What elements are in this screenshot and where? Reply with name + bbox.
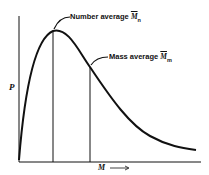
number-average-symbol: M bbox=[131, 12, 138, 21]
mass-average-pointer bbox=[91, 57, 108, 65]
number-average-pointer bbox=[54, 17, 70, 29]
mass-average-label: Mass average Mm bbox=[109, 53, 172, 63]
distribution-curve bbox=[19, 31, 196, 160]
mass-average-symbol: M bbox=[160, 52, 167, 61]
number-average-label: Number average Mn bbox=[70, 13, 141, 23]
y-axis-label: P bbox=[9, 83, 15, 92]
distribution-diagram bbox=[0, 0, 209, 175]
x-axis-label: M bbox=[98, 164, 105, 172]
